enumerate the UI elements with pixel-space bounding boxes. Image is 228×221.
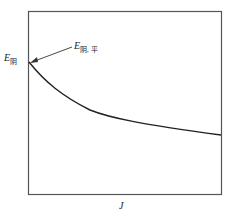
annotation-arrow <box>32 47 72 62</box>
equilibrium-label: E阴, 平 <box>74 40 98 54</box>
polarization-curve <box>29 62 221 135</box>
polarization-chart <box>0 0 228 221</box>
arrow-head-icon <box>30 57 38 63</box>
y-start-label: E阴 <box>4 52 17 66</box>
plot-frame <box>29 12 222 195</box>
x-axis-label: J <box>119 200 123 211</box>
